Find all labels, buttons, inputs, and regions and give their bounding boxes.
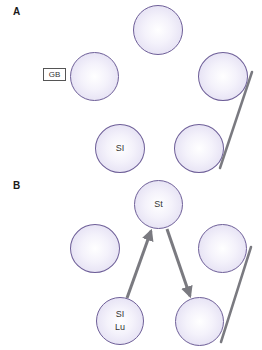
gb-tag: GB bbox=[43, 68, 66, 81]
node-b-lu-label: Lu bbox=[115, 321, 125, 334]
panel-label-a: A bbox=[13, 7, 20, 17]
node-a-gb bbox=[70, 52, 119, 101]
node-a-si-label: SI bbox=[116, 142, 125, 155]
arrow-si-lu-to-st bbox=[127, 231, 151, 298]
node-a-right bbox=[198, 52, 248, 101]
node-b-si-lu: SI Lu bbox=[96, 297, 144, 345]
node-b-left bbox=[70, 224, 120, 273]
node-a-si: SI bbox=[95, 124, 145, 173]
node-b-right bbox=[198, 224, 247, 273]
node-b-st: St bbox=[134, 180, 183, 229]
node-a-bottom-right bbox=[174, 124, 224, 173]
node-b-st-label: St bbox=[154, 198, 163, 211]
arrow-st-to-bottom-right bbox=[167, 229, 190, 296]
panel-label-b: B bbox=[13, 181, 20, 191]
node-b-bottom-right bbox=[175, 297, 224, 346]
diagram: A GB SI B St SI Lu bbox=[0, 0, 262, 350]
gb-tag-text: GB bbox=[49, 70, 61, 80]
node-b-si-label: SI bbox=[116, 308, 125, 321]
node-a-top bbox=[133, 5, 183, 55]
